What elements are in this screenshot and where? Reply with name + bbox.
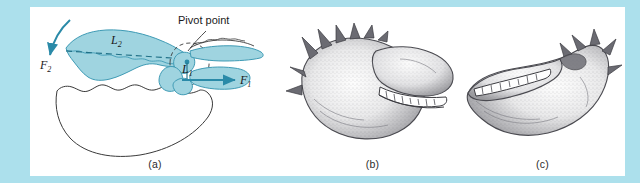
- figure-plate: Pivot point L2 L1 F1 F2 (a): [0, 0, 640, 183]
- figure-white-panel: Pivot point L2 L1 F1 F2 (a): [30, 7, 625, 176]
- panel-c-claw-photo: (c): [460, 7, 625, 176]
- panel-b-claw-photo: (b): [280, 7, 465, 176]
- panel-a-caption: (a): [30, 158, 280, 170]
- pivot-point-label: Pivot point: [178, 14, 229, 26]
- fixed-finger-shaded: [190, 38, 263, 61]
- panel-c-caption: (c): [460, 158, 625, 170]
- label-F2: F2: [39, 58, 51, 74]
- lower-jaw-outline: [56, 85, 212, 157]
- panel-b-caption: (b): [280, 158, 465, 170]
- panel-b-svg: [280, 7, 465, 176]
- panel-c-svg: [460, 7, 625, 176]
- panel-a-schematic: Pivot point L2 L1 F1 F2 (a): [30, 7, 280, 176]
- panel-a-svg: Pivot point L2 L1 F1 F2: [30, 7, 280, 176]
